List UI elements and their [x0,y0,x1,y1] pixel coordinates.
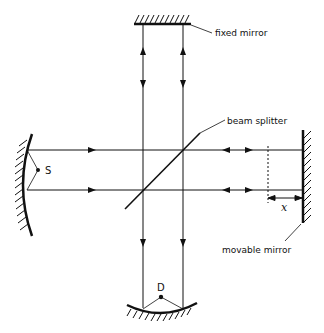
detector-mirror [127,295,197,321]
source-label: S [45,165,51,176]
interferometer-diagram: fixed mirror beam splitter [0,0,324,333]
displacement-label: x [281,201,288,214]
fixed-mirror-label: fixed mirror [215,28,268,38]
source-point [36,168,40,172]
detector-point [159,295,163,299]
detector-label: D [157,282,165,293]
horizontal-arrows [88,147,253,193]
horizontal-beams [27,150,303,190]
fixed-mirror [134,15,212,33]
vertical-beams [143,24,183,308]
movable-mirror-label: movable mirror [222,245,292,255]
beam-splitter-leader [200,120,225,133]
source-mirror [15,134,40,236]
beam-splitter [125,133,200,209]
beam-splitter-label: beam splitter [227,116,287,126]
displacement-arrow [268,196,302,201]
movable-mirror [285,130,311,241]
vertical-arrows [140,47,186,247]
